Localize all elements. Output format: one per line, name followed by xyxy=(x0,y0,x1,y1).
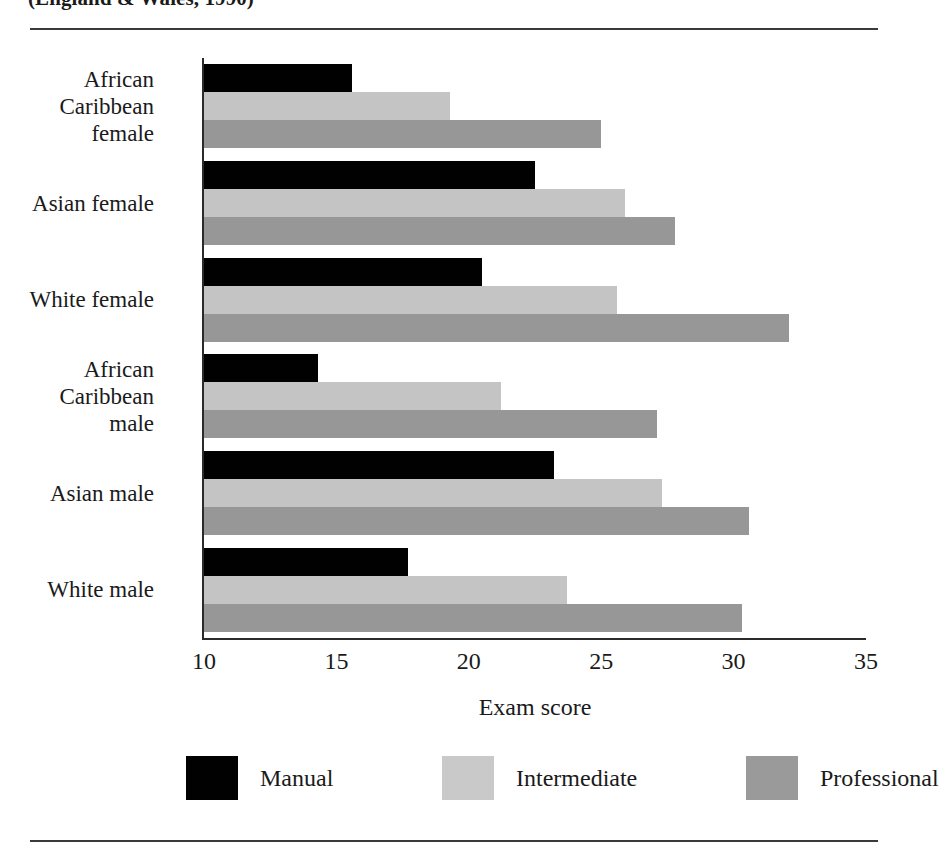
figure-title: (England & Wales, 1990) xyxy=(28,0,254,11)
category-label: AfricanCaribbeanfemale xyxy=(0,66,154,147)
plot-area: AfricanCaribbeanfemaleAsian femaleWhite … xyxy=(204,58,866,638)
bar-professional xyxy=(204,507,749,535)
bar-professional xyxy=(204,120,601,148)
category-label-line: Caribbean xyxy=(0,383,154,410)
bar-group xyxy=(204,258,866,342)
bar-group xyxy=(204,451,866,535)
category-label-line: Caribbean xyxy=(0,93,154,120)
bar-manual xyxy=(204,354,318,382)
bar-professional xyxy=(204,410,657,438)
bar-intermediate xyxy=(204,286,617,314)
bar-intermediate xyxy=(204,479,662,507)
category-label-line: Asian male xyxy=(0,480,154,507)
bar-intermediate xyxy=(204,189,625,217)
bar-manual xyxy=(204,258,482,286)
bar-group xyxy=(204,161,866,245)
bar-intermediate xyxy=(204,382,501,410)
legend-item-intermediate[interactable]: Intermediate xyxy=(442,752,637,804)
category-label-line: male xyxy=(0,410,154,437)
x-tick-label: 10 xyxy=(174,648,234,675)
bar-group xyxy=(204,354,866,438)
bar-professional xyxy=(204,217,675,245)
bar-professional xyxy=(204,604,742,632)
category-label-line: White female xyxy=(0,286,154,313)
category-label-line: White male xyxy=(0,576,154,603)
legend-label: Manual xyxy=(260,765,333,792)
bar-manual xyxy=(204,548,408,576)
legend-label: Intermediate xyxy=(516,765,637,792)
bar-manual xyxy=(204,451,554,479)
x-tick-label: 20 xyxy=(439,648,499,675)
bar-intermediate xyxy=(204,92,450,120)
category-label: Asian female xyxy=(0,190,154,217)
bar-group xyxy=(204,64,866,148)
category-label-line: African xyxy=(0,356,154,383)
bar-manual xyxy=(204,64,352,92)
bar-professional xyxy=(204,314,789,342)
x-axis-line xyxy=(202,638,866,640)
category-label: AfricanCaribbeanmale xyxy=(0,356,154,437)
category-label-line: female xyxy=(0,120,154,147)
x-tick-label: 15 xyxy=(306,648,366,675)
legend-swatch-manual xyxy=(186,756,238,800)
bar-manual xyxy=(204,161,535,189)
category-label: Asian male xyxy=(0,480,154,507)
x-tick-label: 25 xyxy=(571,648,631,675)
legend-swatch-professional xyxy=(746,756,798,800)
category-label-line: Asian female xyxy=(0,190,154,217)
category-label: White male xyxy=(0,576,154,603)
bar-intermediate xyxy=(204,576,567,604)
rule-bottom xyxy=(30,840,878,842)
legend-label: Professional xyxy=(820,765,939,792)
category-label: White female xyxy=(0,286,154,313)
x-axis-label: Exam score xyxy=(204,694,866,721)
legend-item-manual[interactable]: Manual xyxy=(186,752,333,804)
bar-group xyxy=(204,548,866,632)
legend-item-professional[interactable]: Professional xyxy=(746,752,939,804)
rule-top xyxy=(30,28,878,30)
category-label-line: African xyxy=(0,66,154,93)
chart-legend: ManualIntermediateProfessional xyxy=(186,752,886,808)
legend-swatch-intermediate xyxy=(442,756,494,800)
x-tick-label: 35 xyxy=(836,648,896,675)
figure-title-clip: (England & Wales, 1990) xyxy=(0,0,908,12)
x-tick-label: 30 xyxy=(704,648,764,675)
x-axis-ticks: 101520253035 xyxy=(204,648,866,682)
